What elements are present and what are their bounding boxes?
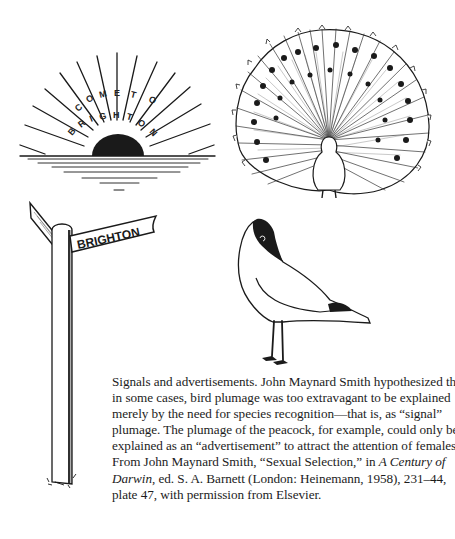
caption-line: Signals and advertisements. John Maynard…: [112, 374, 452, 390]
svg-text:O: O: [84, 93, 95, 105]
svg-text:O: O: [136, 117, 147, 129]
caption-line: in some cases, bird plumage was too extr…: [112, 390, 452, 406]
gull-illustration: [220, 200, 420, 370]
figure-plate: C O M E T O B R I G H T O N: [0, 0, 455, 539]
caption-line: From John Maynard Smith, “Sexual Selecti…: [112, 454, 452, 470]
figure-caption: Signals and advertisements. John Maynard…: [112, 374, 452, 503]
caption-line: plumage. The plumage of the peacock, for…: [112, 422, 452, 438]
caption-line: merely by the need for species recogniti…: [112, 406, 452, 422]
svg-text:C: C: [73, 101, 85, 113]
sunburst-illustration: C O M E T O B R I G H T O N: [0, 20, 230, 200]
svg-text:M: M: [98, 88, 108, 100]
book-title-italic: A Century of: [379, 454, 446, 469]
caption-line: explained as an “advertisement” to attra…: [112, 438, 452, 454]
peacock-illustration: [225, 20, 455, 205]
svg-text:G: G: [98, 111, 107, 122]
svg-text:T: T: [130, 89, 138, 100]
caption-citation-text: From John Maynard Smith, “Sexual Selecti…: [112, 454, 379, 469]
svg-text:N: N: [148, 127, 160, 139]
svg-text:H: H: [113, 110, 120, 120]
book-title-italic: Darwin: [112, 471, 152, 486]
svg-text:E: E: [114, 88, 120, 98]
caption-line: plate 47, with permission from Elsevier.: [112, 487, 452, 503]
caption-line: Darwin, ed. S. A. Barnett (London: Heine…: [112, 471, 452, 487]
caption-citation-text: , ed. S. A. Barnett (London: Heinemann, …: [152, 471, 446, 486]
svg-text:O: O: [147, 94, 158, 106]
